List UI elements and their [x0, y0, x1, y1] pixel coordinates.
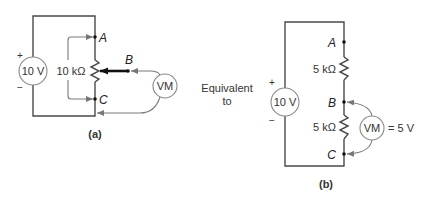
node-b-dot-b	[342, 100, 346, 104]
meter-lead-c-b	[347, 140, 372, 154]
equivalent-text-line1: Equivalent	[201, 82, 252, 94]
voltmeter-label-a: VM	[157, 80, 174, 92]
node-c-dot	[93, 97, 97, 101]
resistor-r1-zigzag	[340, 57, 348, 80]
figure-b: 10 V + − 5 kΩ 5 kΩ A B C VM = 5 V (b)	[269, 22, 415, 190]
plus-sign-b: +	[269, 77, 275, 88]
plus-sign-a: +	[17, 50, 23, 61]
resistor-r2-label: 5 kΩ	[313, 121, 336, 133]
source-label-b: 10 V	[274, 96, 297, 108]
node-a-label-b: A	[327, 36, 336, 50]
node-c-dot-b	[342, 152, 346, 156]
node-a-dot	[93, 35, 97, 39]
caption-a: (a)	[88, 128, 102, 140]
bracket-arrow-a	[68, 37, 93, 60]
meter-lead-b-b	[347, 102, 372, 116]
minus-sign-b: −	[269, 115, 275, 126]
node-c-label: C	[99, 93, 108, 107]
bracket-arrow-c	[68, 80, 93, 99]
circuit-diagram: 10 V + − A C 10 kΩ B VM (a) Equivalent t…	[0, 0, 429, 199]
caption-b: (b)	[319, 178, 333, 190]
resistor-r2-zigzag	[340, 115, 348, 139]
meter-lead-b-a	[131, 71, 160, 75]
source-label-a: 10 V	[22, 65, 45, 77]
node-b-label: B	[125, 53, 133, 67]
voltmeter-reading-b: = 5 V	[388, 122, 415, 134]
node-a-dot-b	[342, 40, 346, 44]
voltmeter-label-b: VM	[364, 122, 381, 134]
potentiometer-zigzag	[91, 60, 99, 82]
node-b-dot	[126, 69, 130, 73]
figure-a: 10 V + − A C 10 kΩ B VM (a)	[17, 16, 177, 140]
pot-value-label: 10 kΩ	[56, 65, 85, 77]
equivalent-text-line2: to	[222, 95, 231, 107]
node-c-label-b: C	[327, 148, 336, 162]
node-b-label-b: B	[328, 96, 336, 110]
minus-sign-a: −	[17, 82, 23, 93]
resistor-r1-label: 5 kΩ	[313, 63, 336, 75]
node-a-label: A	[98, 31, 107, 45]
